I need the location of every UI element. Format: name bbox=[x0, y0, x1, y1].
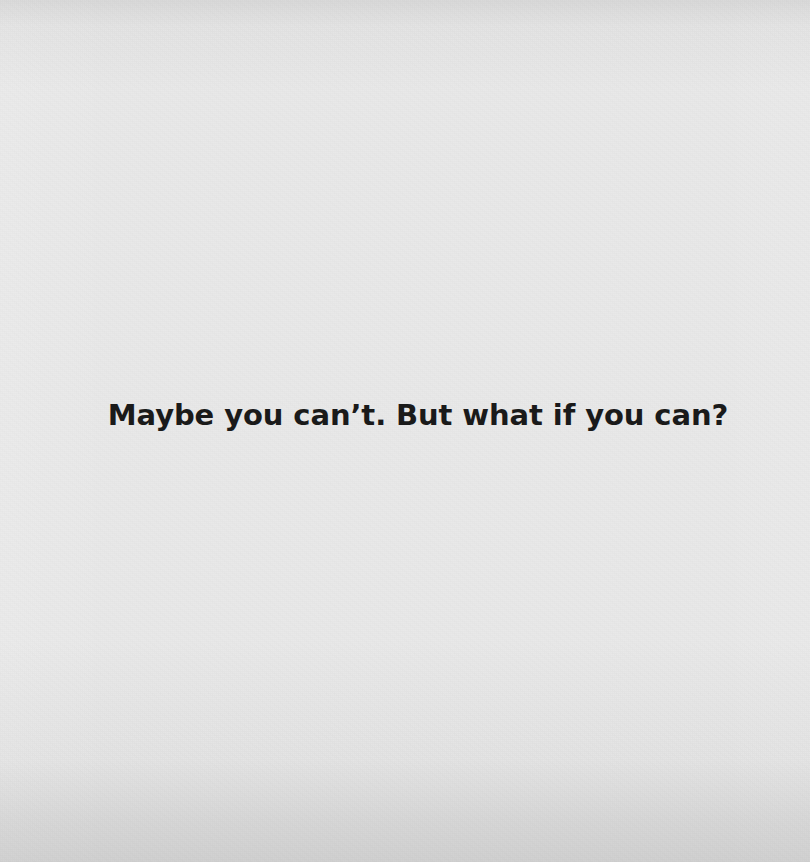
quote-card: Maybe you can’t. But what if you can? bbox=[0, 0, 810, 862]
quote-container: Maybe you can’t. But what if you can? bbox=[0, 0, 810, 862]
quote-text: Maybe you can’t. But what if you can? bbox=[108, 398, 728, 433]
